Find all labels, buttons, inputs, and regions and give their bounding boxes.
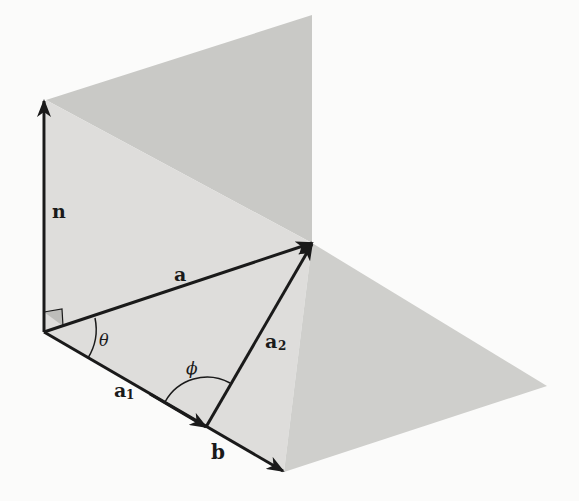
horizontal-plane [284, 243, 547, 472]
label-b: b [211, 440, 225, 464]
label-theta: θ [99, 331, 109, 350]
label-a2-main: a [265, 330, 277, 352]
label-phi: ϕ [186, 358, 198, 378]
label-a2-subscript: 2 [278, 339, 286, 353]
label-a1-subscript: 1 [126, 388, 134, 402]
label-a: a [174, 263, 186, 285]
label-n: n [52, 200, 66, 222]
vector-decomposition-diagram: n a θ ϕ a 1 a 2 b [0, 0, 579, 501]
label-a1-main: a [114, 379, 126, 401]
